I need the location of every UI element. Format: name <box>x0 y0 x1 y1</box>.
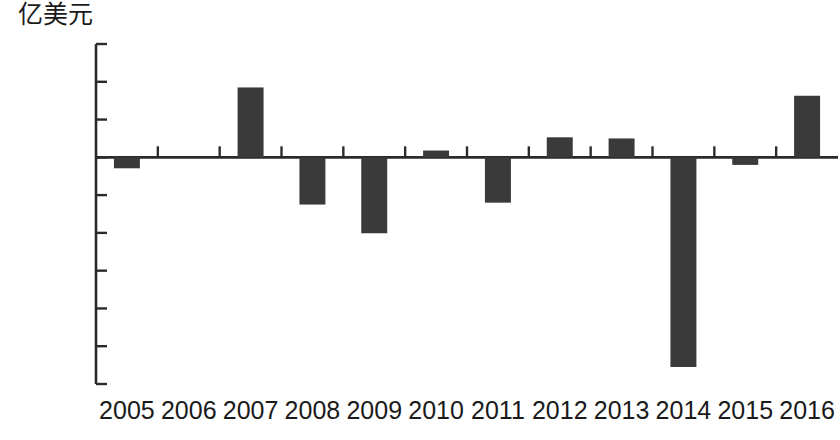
x-tick-label: 2005 <box>96 398 158 423</box>
x-tick-label: 2007 <box>220 398 282 423</box>
x-tick-label: 2006 <box>158 398 220 423</box>
x-tick-label: 2009 <box>343 398 405 423</box>
x-axis-tick-labels: 2005200620072008200920102011201220132014… <box>0 0 840 440</box>
x-tick-label: 2010 <box>405 398 467 423</box>
x-tick-label: 2012 <box>529 398 591 423</box>
chart-container: 亿美元 3000200010000−1000−2000−3000−4000−50… <box>0 0 840 440</box>
x-tick-label: 2015 <box>714 398 776 423</box>
x-tick-label: 2014 <box>653 398 715 423</box>
x-tick-label: 2013 <box>591 398 653 423</box>
x-tick-label: 2016 <box>776 398 838 423</box>
x-tick-label: 2011 <box>467 398 529 423</box>
x-tick-label: 2008 <box>282 398 344 423</box>
